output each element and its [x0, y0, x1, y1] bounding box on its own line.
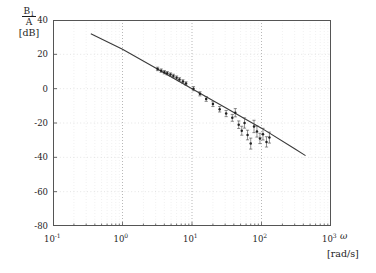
data-point — [234, 109, 237, 117]
data-point — [255, 126, 258, 137]
y-axis-tick: 20 — [22, 49, 48, 59]
data-marker — [231, 117, 234, 120]
data-marker — [199, 93, 202, 96]
data-marker — [192, 87, 195, 90]
data-point — [252, 120, 255, 132]
data-point — [218, 107, 221, 112]
model-fit-line — [91, 34, 306, 156]
bode-magnitude-plot: B1 A [dB] 40200-20-40-60-80 10-110010110… — [0, 0, 376, 273]
x-axis-units: [rad/s] — [327, 248, 359, 259]
data-point — [237, 121, 240, 129]
data-point — [211, 102, 214, 107]
data-marker — [265, 141, 268, 144]
y-axis-tick: -40 — [22, 152, 48, 162]
data-point — [249, 138, 252, 149]
data-marker — [218, 108, 221, 111]
y-axis-tick: -80 — [22, 221, 48, 231]
data-point — [258, 133, 261, 143]
data-marker — [256, 130, 258, 133]
data-marker — [156, 68, 159, 71]
x-axis-tick: 103 — [322, 232, 337, 244]
data-marker — [160, 69, 163, 72]
data-marker — [253, 125, 256, 128]
x-axis-tick: 102 — [253, 232, 268, 244]
data-marker — [246, 134, 249, 137]
data-marker — [185, 82, 188, 85]
y-axis-tick: -20 — [22, 118, 48, 128]
y-axis-tick: 0 — [22, 84, 48, 94]
x-axis-symbol: ω — [340, 231, 347, 241]
x-axis-tick: 101 — [183, 232, 198, 244]
plot-canvas — [53, 20, 331, 226]
x-axis-tick: 100 — [114, 232, 129, 244]
x-axis-tick: 10-1 — [44, 232, 61, 244]
data-point — [265, 137, 268, 147]
data-marker — [234, 111, 237, 114]
data-marker — [169, 73, 172, 76]
y-axis-tick: 40 — [22, 15, 48, 25]
data-marker — [241, 129, 244, 132]
data-point — [231, 114, 234, 121]
data-marker — [182, 80, 185, 83]
y-axis-units: [dB] — [6, 28, 52, 39]
data-marker — [262, 133, 265, 136]
data-marker — [225, 112, 228, 115]
plot-area — [53, 20, 331, 226]
data-marker — [166, 72, 169, 75]
data-marker — [178, 78, 181, 81]
data-marker — [259, 137, 262, 140]
data-marker — [212, 103, 215, 106]
data-marker — [249, 142, 252, 145]
data-point — [240, 126, 243, 135]
data-marker — [268, 136, 271, 139]
data-marker — [237, 123, 240, 126]
data-marker — [243, 122, 246, 125]
y-axis-tick: -60 — [22, 187, 48, 197]
data-marker — [205, 98, 208, 101]
data-marker — [172, 75, 175, 78]
data-point — [246, 130, 249, 140]
data-marker — [163, 71, 166, 74]
data-marker — [175, 76, 178, 79]
